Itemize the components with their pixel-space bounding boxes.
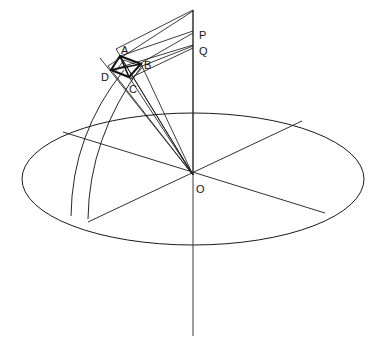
label-A: A xyxy=(121,45,128,56)
figure-canvas: A B C D P Q O xyxy=(0,0,381,353)
label-O: O xyxy=(196,184,205,195)
label-B: B xyxy=(144,60,151,71)
chord-sw-ne xyxy=(88,121,302,222)
ray-O-to-C xyxy=(129,77,193,175)
chord-nw-se xyxy=(63,132,325,213)
ray-O-to-A xyxy=(116,49,193,175)
geometry-diagram xyxy=(0,0,381,353)
label-C: C xyxy=(129,84,137,95)
label-Q: Q xyxy=(199,46,208,57)
label-D: D xyxy=(101,72,109,83)
label-P: P xyxy=(199,30,206,41)
